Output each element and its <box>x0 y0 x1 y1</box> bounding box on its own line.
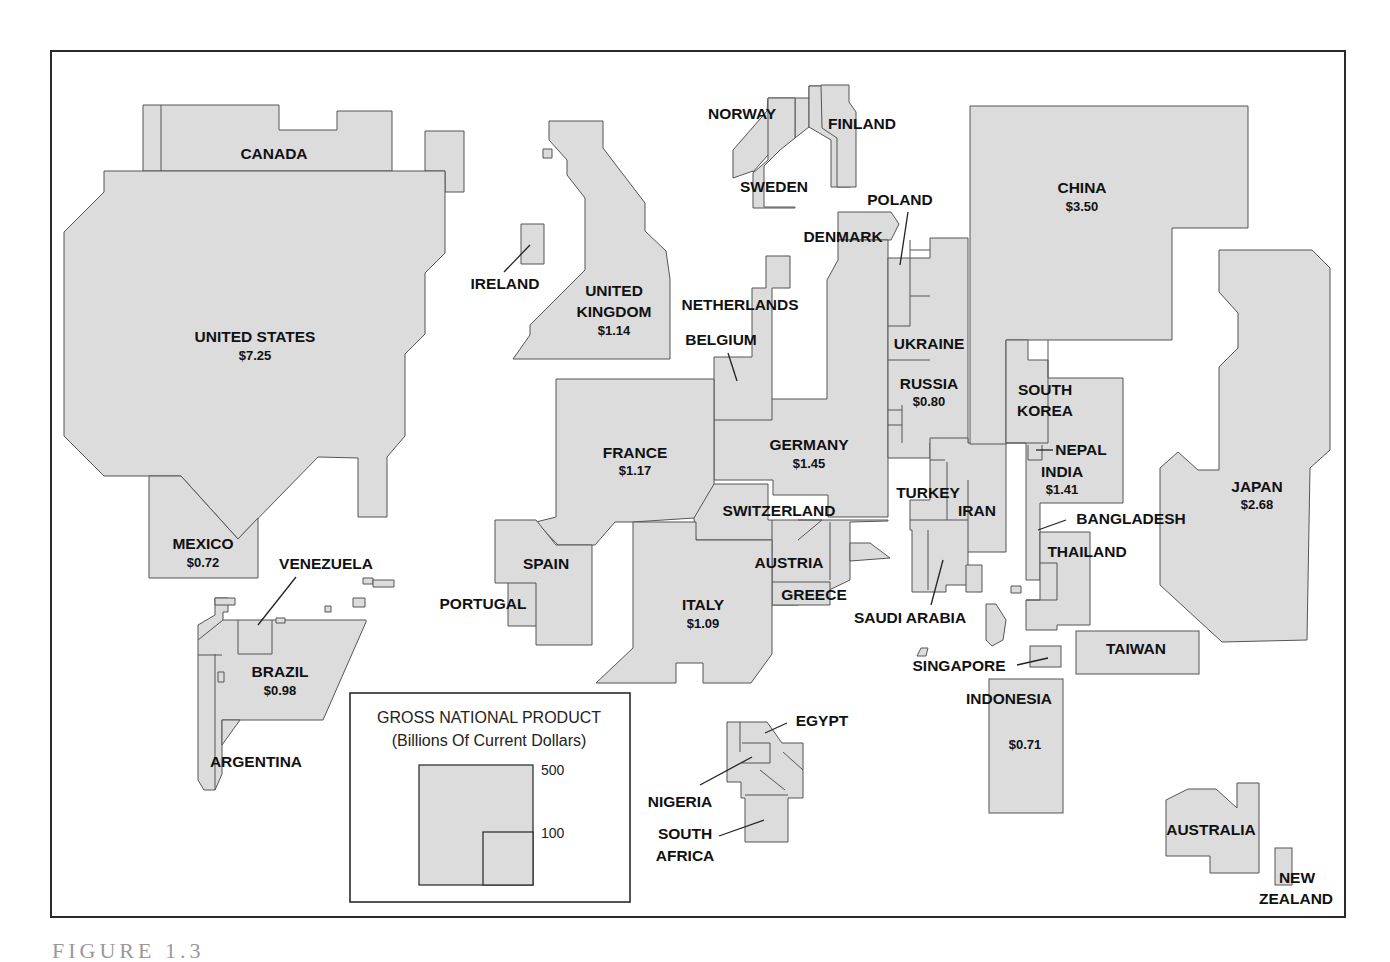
value-united-kingdom: $1.14 <box>598 323 631 338</box>
value-brazil: $0.98 <box>264 683 297 698</box>
label-ireland: IRELAND <box>471 275 540 292</box>
legend-subtitle: (Billions Of Current Dollars) <box>392 732 587 749</box>
legend-title: GROSS NATIONAL PRODUCT <box>377 709 601 726</box>
label-australia: AUSTRALIA <box>1166 821 1256 838</box>
label-canada: CANADA <box>240 145 307 162</box>
leader-bangladesh <box>1038 520 1066 530</box>
label-united-kingdom-line1: UNITED <box>585 282 643 299</box>
label-austria: AUSTRIA <box>755 554 824 571</box>
label-china: CHINA <box>1057 179 1106 196</box>
legend: GROSS NATIONAL PRODUCT (Billions Of Curr… <box>350 693 630 902</box>
label-denmark: DENMARK <box>803 228 883 245</box>
label-mexico: MEXICO <box>172 535 233 552</box>
label-iran: IRAN <box>958 502 996 519</box>
label-russia: RUSSIA <box>900 375 959 392</box>
region-germany-netherlands-belgium <box>714 240 888 517</box>
legend-square-100 <box>483 832 533 885</box>
label-turkey: TURKEY <box>896 484 960 501</box>
label-singapore: SINGAPORE <box>912 657 1005 674</box>
label-italy: ITALY <box>682 596 725 613</box>
value-mexico: $0.72 <box>187 555 220 570</box>
label-finland: FINLAND <box>828 115 896 132</box>
value-united-states: $7.25 <box>239 348 272 363</box>
value-france: $1.17 <box>619 463 652 478</box>
label-germany: GERMANY <box>769 436 849 453</box>
region-ireland <box>521 149 552 264</box>
label-ukraine: UKRAINE <box>894 335 965 352</box>
label-argentina: ARGENTINA <box>210 753 302 770</box>
label-japan: JAPAN <box>1231 478 1282 495</box>
label-nigeria: NIGERIA <box>648 793 713 810</box>
value-china: $3.50 <box>1066 199 1099 214</box>
label-south-korea-line1: SOUTH <box>1018 381 1072 398</box>
label-norway: NORWAY <box>708 105 777 122</box>
value-russia: $0.80 <box>913 394 946 409</box>
label-portugal: PORTUGAL <box>440 595 527 612</box>
label-south-africa-line1: SOUTH <box>658 825 712 842</box>
label-spain: SPAIN <box>523 555 569 572</box>
label-united-states: UNITED STATES <box>195 328 316 345</box>
region-united-states <box>64 171 445 578</box>
label-united-kingdom-line2: KINGDOM <box>577 303 652 320</box>
label-south-africa-line2: AFRICA <box>656 847 715 864</box>
label-brazil: BRAZIL <box>252 663 309 680</box>
label-thailand: THAILAND <box>1047 543 1126 560</box>
label-netherlands: NETHERLANDS <box>681 296 798 313</box>
label-indonesia: INDONESIA <box>966 690 1052 707</box>
label-egypt: EGYPT <box>796 712 849 729</box>
value-india: $1.41 <box>1046 482 1079 497</box>
region-singapore <box>1030 646 1061 667</box>
label-nepal: NEPAL <box>1055 441 1106 458</box>
region-japan <box>1160 250 1330 642</box>
label-belgium: BELGIUM <box>685 331 756 348</box>
region-africa <box>727 722 803 842</box>
value-indonesia: $0.71 <box>1009 737 1042 752</box>
value-japan: $2.68 <box>1241 497 1274 512</box>
label-new-zealand-line2: ZEALAND <box>1259 890 1333 907</box>
label-india: INDIA <box>1041 463 1083 480</box>
label-taiwan: TAIWAN <box>1106 640 1166 657</box>
label-venezuela: VENEZUELA <box>279 555 373 572</box>
label-switzerland: SWITZERLAND <box>723 502 836 519</box>
value-italy: $1.09 <box>687 616 720 631</box>
label-new-zealand-line1: NEW <box>1279 869 1316 886</box>
legend-label-500: 500 <box>541 762 565 778</box>
value-germany: $1.45 <box>793 456 826 471</box>
label-france: FRANCE <box>603 444 668 461</box>
figure-caption: FIGURE 1.3 <box>52 938 204 962</box>
region-france <box>536 379 714 545</box>
label-south-korea-line2: KOREA <box>1017 402 1073 419</box>
label-bangladesh: BANGLADESH <box>1076 510 1185 527</box>
leader-poland <box>900 212 908 265</box>
legend-label-100: 100 <box>541 825 565 841</box>
label-greece: GREECE <box>781 586 846 603</box>
label-saudi-arabia: SAUDI ARABIA <box>854 609 966 626</box>
label-poland: POLAND <box>867 191 932 208</box>
label-sweden: SWEDEN <box>740 178 808 195</box>
